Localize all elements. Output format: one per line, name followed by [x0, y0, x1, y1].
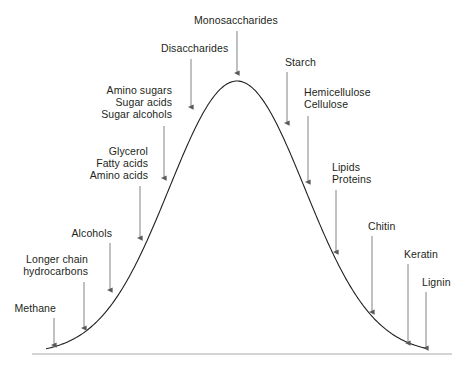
- label-disaccharides: Disaccharides: [161, 43, 231, 55]
- label-line: hydrocarbons: [16, 266, 88, 278]
- label-starch: Starch: [285, 57, 319, 69]
- label-monosaccharides: Monosaccharides: [194, 15, 280, 27]
- label-chitin: Chitin: [368, 221, 400, 233]
- label-alcohols: Alcohols: [70, 228, 112, 240]
- label-line: Lignin: [422, 277, 454, 289]
- label-line: Cellulose: [304, 99, 378, 111]
- label-keratin: Keratin: [404, 249, 440, 261]
- label-line: Fatty acids: [80, 158, 148, 170]
- figure-canvas: MethaneLonger chainhydrocarbonsAlcoholsG…: [0, 0, 467, 370]
- label-line: Disaccharides: [161, 43, 231, 55]
- bell-curve: [46, 81, 425, 349]
- label-line: Sugar acids: [90, 97, 172, 109]
- label-hemicellulose-cellulose: HemicelluloseCellulose: [304, 87, 378, 111]
- bell-curve-path: [46, 81, 425, 349]
- label-methane: Methane: [14, 303, 56, 315]
- label-lipids-proteins: LipidsProteins: [332, 162, 380, 186]
- annotation-arrows: [54, 31, 426, 348]
- label-line: Monosaccharides: [194, 15, 280, 27]
- label-line: Methane: [14, 303, 56, 315]
- label-line: Alcohols: [70, 228, 112, 240]
- label-line: Proteins: [332, 174, 380, 186]
- label-glycerol-fatty-acids-amino-acids: GlycerolFatty acidsAmino acids: [80, 146, 148, 181]
- label-line: Sugar alcohols: [90, 109, 172, 121]
- label-amino-sugars-sugar-acids-sugar-alcohols: Amino sugarsSugar acidsSugar alcohols: [90, 85, 172, 120]
- label-longer-chain-hydrocarbons: Longer chainhydrocarbons: [16, 254, 88, 278]
- curve-diagram: [0, 0, 467, 370]
- label-line: Starch: [285, 57, 319, 69]
- label-lignin: Lignin: [422, 277, 454, 289]
- label-line: Amino acids: [80, 170, 148, 182]
- label-line: Chitin: [368, 221, 400, 233]
- label-line: Keratin: [404, 249, 440, 261]
